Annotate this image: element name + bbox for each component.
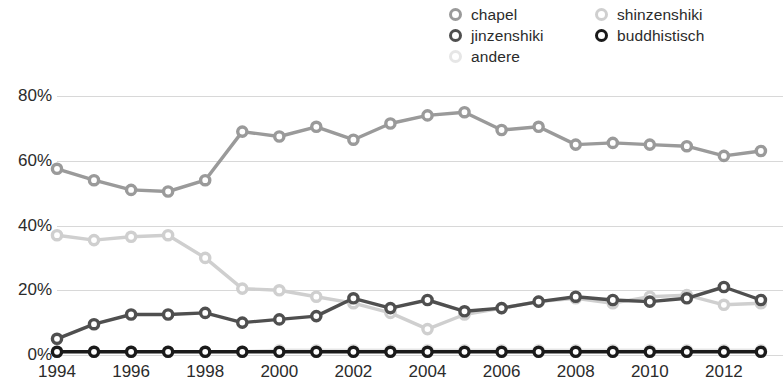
data-point-marker[interactable]	[534, 297, 543, 306]
data-point-marker[interactable]	[571, 292, 580, 301]
data-point-marker[interactable]	[682, 142, 691, 151]
data-point-marker[interactable]	[275, 286, 284, 295]
data-point-marker[interactable]	[201, 308, 210, 317]
data-point-marker[interactable]	[460, 307, 469, 316]
data-point-marker[interactable]	[719, 347, 728, 356]
data-point-marker[interactable]	[127, 347, 136, 356]
data-point-marker[interactable]	[312, 122, 321, 131]
data-point-marker[interactable]	[164, 187, 173, 196]
data-point-marker[interactable]	[312, 292, 321, 301]
data-point-marker[interactable]	[645, 297, 654, 306]
data-point-marker[interactable]	[238, 318, 247, 327]
data-point-marker[interactable]	[756, 146, 765, 155]
data-point-marker[interactable]	[386, 347, 395, 356]
data-point-marker[interactable]	[460, 108, 469, 117]
line-chart: chapeljinzenshikiandere shinzenshikibudd…	[0, 0, 783, 386]
data-point-marker[interactable]	[645, 140, 654, 149]
data-point-marker[interactable]	[312, 312, 321, 321]
data-point-marker[interactable]	[608, 138, 617, 147]
data-point-marker[interactable]	[164, 347, 173, 356]
data-point-marker[interactable]	[238, 347, 247, 356]
plot-area: 80%60%40%20%0% 1994199619982000200220042…	[0, 0, 783, 386]
series-line	[57, 112, 761, 191]
data-point-marker[interactable]	[52, 334, 61, 343]
data-point-marker[interactable]	[756, 347, 765, 356]
data-point-marker[interactable]	[386, 304, 395, 313]
data-point-marker[interactable]	[423, 111, 432, 120]
data-point-marker[interactable]	[682, 294, 691, 303]
data-point-marker[interactable]	[52, 231, 61, 240]
data-point-marker[interactable]	[275, 347, 284, 356]
data-point-marker[interactable]	[571, 140, 580, 149]
data-point-marker[interactable]	[497, 347, 506, 356]
data-point-marker[interactable]	[127, 185, 136, 194]
series-shinzenshiki	[52, 231, 765, 334]
data-point-marker[interactable]	[682, 347, 691, 356]
data-point-marker[interactable]	[497, 125, 506, 134]
data-point-marker[interactable]	[89, 176, 98, 185]
data-point-marker[interactable]	[52, 347, 61, 356]
data-point-marker[interactable]	[645, 347, 654, 356]
data-point-marker[interactable]	[719, 282, 728, 291]
data-point-marker[interactable]	[164, 231, 173, 240]
series-jinzenshiki	[52, 282, 765, 343]
data-point-marker[interactable]	[238, 284, 247, 293]
data-point-marker[interactable]	[719, 151, 728, 160]
data-point-marker[interactable]	[423, 325, 432, 334]
data-point-marker[interactable]	[608, 295, 617, 304]
data-point-marker[interactable]	[127, 310, 136, 319]
data-point-marker[interactable]	[127, 232, 136, 241]
data-point-marker[interactable]	[423, 295, 432, 304]
data-point-marker[interactable]	[349, 347, 358, 356]
series-layer	[0, 0, 783, 386]
data-point-marker[interactable]	[423, 347, 432, 356]
data-point-marker[interactable]	[719, 300, 728, 309]
data-point-marker[interactable]	[571, 347, 580, 356]
data-point-marker[interactable]	[52, 164, 61, 173]
data-point-marker[interactable]	[275, 132, 284, 141]
data-point-marker[interactable]	[460, 347, 469, 356]
data-point-marker[interactable]	[756, 295, 765, 304]
series-chapel	[52, 108, 765, 196]
data-point-marker[interactable]	[89, 236, 98, 245]
data-point-marker[interactable]	[89, 320, 98, 329]
data-point-marker[interactable]	[275, 315, 284, 324]
data-point-marker[interactable]	[89, 347, 98, 356]
data-point-marker[interactable]	[164, 310, 173, 319]
data-point-marker[interactable]	[608, 347, 617, 356]
data-point-marker[interactable]	[534, 347, 543, 356]
data-point-marker[interactable]	[349, 294, 358, 303]
data-point-marker[interactable]	[349, 135, 358, 144]
data-point-marker[interactable]	[238, 127, 247, 136]
data-point-marker[interactable]	[386, 119, 395, 128]
data-point-marker[interactable]	[497, 304, 506, 313]
data-point-marker[interactable]	[201, 176, 210, 185]
data-point-marker[interactable]	[201, 347, 210, 356]
data-point-marker[interactable]	[312, 347, 321, 356]
data-point-marker[interactable]	[534, 122, 543, 131]
data-point-marker[interactable]	[201, 253, 210, 262]
